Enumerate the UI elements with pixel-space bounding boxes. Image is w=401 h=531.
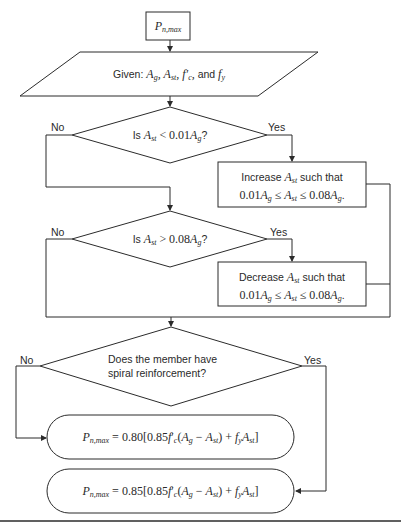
start-symbol: P	[155, 19, 162, 33]
increase-steel-text: Increase Ast such that 0.01Ag ≤ Ast ≤ 0.…	[218, 170, 366, 206]
start-label: Pn,max	[146, 19, 190, 37]
connector-decision3-no	[16, 366, 46, 438]
decrease-steel-text: Decrease Ast such that 0.01Ag ≤ Ast ≤ 0.…	[218, 270, 366, 306]
decision-spiral-line2: spiral reinforcement?	[108, 366, 248, 380]
decision-max-steel-yes-label: Yes	[270, 227, 287, 238]
connector-decision2-no	[46, 239, 72, 317]
decision-min-steel-yes-label: Yes	[268, 122, 285, 133]
connector-increase-out	[366, 184, 390, 317]
decision-max-steel-text: Is Ast > 0.08Ag?	[90, 232, 250, 250]
decision-spiral-no-label: No	[20, 355, 33, 366]
connector-decision3-yes	[296, 366, 326, 491]
decision-spiral-line1: Does the member have	[108, 352, 248, 366]
decision-spiral-yes-label: Yes	[304, 355, 321, 366]
input-prefix: Given:	[113, 68, 143, 80]
input-and: and	[198, 68, 216, 80]
terminal-tied-equation: Pn,max = 0.80[0.85f′c(Ag − Ast) + fyAst]	[47, 430, 294, 448]
connector-decision1-yes	[267, 135, 292, 161]
decision-min-steel-no-label: No	[51, 122, 64, 133]
start-subscript: n,max	[162, 25, 181, 34]
connector-decision2-yes	[267, 239, 292, 261]
decision-min-steel-text: Is Ast < 0.01Ag?	[90, 128, 250, 146]
decision-spiral-text: Does the member have spiral reinforcemen…	[108, 352, 248, 380]
input-label: Given: Ag, Ast, f′c, and fy	[40, 67, 298, 85]
terminal-spiral-equation: Pn,max = 0.85[0.85f′c(Ag − Ast) + fyAst]	[47, 484, 294, 502]
decision-max-steel-no-label: No	[51, 227, 64, 238]
